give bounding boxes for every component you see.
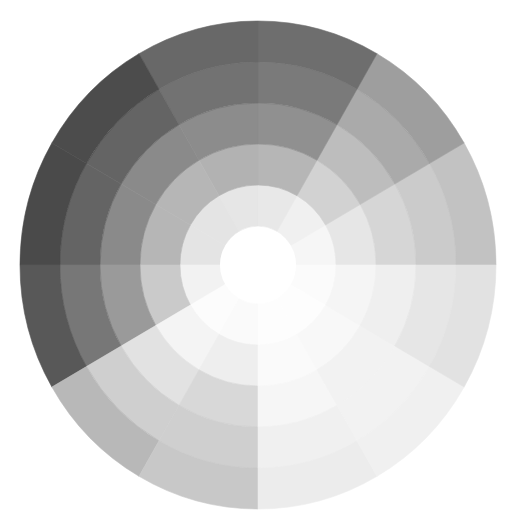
- tonal-wheel: [0, 0, 513, 532]
- tonal-wheel-graphic: [0, 0, 513, 532]
- wheel-center-hole: [220, 227, 296, 303]
